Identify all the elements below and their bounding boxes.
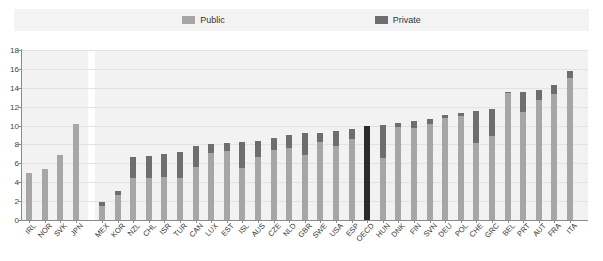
bar-GBR[interactable] <box>302 133 308 220</box>
bar-CAN[interactable] <box>193 146 199 220</box>
x-label-GBR: GBR <box>297 222 314 239</box>
bar-ISL-private-segment <box>239 142 245 168</box>
bar-FIN[interactable] <box>411 121 417 220</box>
bar-LUX-public-segment <box>208 153 214 220</box>
bar-NZL[interactable] <box>130 157 136 220</box>
bar-SVN[interactable] <box>427 119 433 220</box>
bar-CAN-public-segment <box>193 167 199 220</box>
bar-GBR-public-segment <box>302 155 308 220</box>
bar-GRC-private-segment <box>489 109 495 136</box>
bar-POL[interactable] <box>458 113 464 220</box>
y-tick-label-16: 16 <box>10 66 19 74</box>
bar-MEX[interactable] <box>99 202 105 220</box>
bar-LUX[interactable] <box>208 144 214 221</box>
bar-NLD-public-segment <box>286 148 292 220</box>
bar-DNK[interactable] <box>395 123 401 220</box>
bar-ESP-private-segment <box>349 129 355 138</box>
bar-USA[interactable] <box>333 131 339 220</box>
bar-NZL-private-segment <box>130 157 136 178</box>
x-label-CAN: CAN <box>188 222 204 239</box>
bar-IRL-public-segment <box>26 173 32 220</box>
bar-KOR[interactable] <box>115 191 121 220</box>
y-tick-label-2: 2 <box>15 198 19 206</box>
bar-GBR-private-segment <box>302 133 308 155</box>
x-label-ITA: ITA <box>565 222 578 235</box>
bar-CHL-public-segment <box>146 178 152 220</box>
bar-AUS[interactable] <box>255 141 261 220</box>
bar-CZE[interactable] <box>271 138 277 220</box>
bar-SWE[interactable] <box>317 133 323 220</box>
bar-PRT-public-segment <box>520 112 526 220</box>
legend-public-swatch-icon <box>182 16 195 24</box>
bar-FRA[interactable] <box>551 85 557 220</box>
bar-TUR-public-segment <box>177 178 183 221</box>
x-label-USA: USA <box>328 222 344 238</box>
y-tick-label-8: 8 <box>15 141 19 149</box>
y-tick-label-0: 0 <box>15 217 19 225</box>
bar-IRL[interactable] <box>26 173 32 220</box>
bar-ITA[interactable] <box>567 71 573 220</box>
y-tick-10 <box>18 126 22 127</box>
x-label-JPN: JPN <box>69 222 84 237</box>
bar-ITA-private-segment <box>567 71 573 79</box>
x-label-KOR: KOR <box>110 222 127 239</box>
bar-CAN-private-segment <box>193 146 199 167</box>
x-label-AUT: AUT <box>532 222 548 238</box>
x-label-HUN: HUN <box>375 222 392 239</box>
bar-AUT[interactable] <box>536 90 542 220</box>
bar-SVK-public-segment <box>57 155 63 220</box>
legend-public-label: Public <box>200 16 225 25</box>
bar-DEU[interactable] <box>442 115 448 220</box>
bar-NLD[interactable] <box>286 135 292 220</box>
plot-area <box>22 50 588 220</box>
x-label-CHE: CHE <box>469 222 485 239</box>
y-tick-14 <box>18 88 22 89</box>
bar-TUR[interactable] <box>177 152 183 220</box>
x-label-CHL: CHL <box>142 222 158 238</box>
bar-SVN-public-segment <box>427 124 433 220</box>
y-tick-label-10: 10 <box>10 123 19 131</box>
bar-NLD-private-segment <box>286 135 292 148</box>
bar-GRC[interactable] <box>489 109 495 220</box>
gridline-16 <box>22 69 588 70</box>
bar-PRT[interactable] <box>520 92 526 220</box>
bar-GRC-public-segment <box>489 136 495 220</box>
x-label-CZE: CZE <box>266 222 282 238</box>
bar-LUX-private-segment <box>208 144 214 153</box>
legend-public[interactable]: Public <box>182 16 225 25</box>
bar-SVK[interactable] <box>57 155 63 220</box>
bar-CHE[interactable] <box>473 111 479 220</box>
bar-SWE-private-segment <box>317 133 323 142</box>
x-axis-labels: IRLNORSVKJPNMEXKORNZLCHLISRTURCANLUXESTI… <box>22 222 588 261</box>
x-label-EST: EST <box>220 222 235 238</box>
y-tick-label-4: 4 <box>15 179 19 187</box>
bar-ISR[interactable] <box>161 154 167 220</box>
bar-USA-public-segment <box>333 146 339 220</box>
y-tick-label-18: 18 <box>10 47 19 55</box>
bar-EST[interactable] <box>224 143 230 220</box>
y-axis-labels: 024681012141618 <box>0 50 19 221</box>
bar-MEX-public-segment <box>99 206 105 220</box>
bar-HUN-public-segment <box>380 158 386 220</box>
bar-HUN-private-segment <box>380 125 386 158</box>
y-tick-4 <box>18 182 22 183</box>
bar-OECD[interactable] <box>364 126 370 220</box>
x-label-DNK: DNK <box>391 222 407 239</box>
bar-JPN[interactable] <box>73 124 79 220</box>
x-label-PRT: PRT <box>516 222 532 238</box>
x-label-LUX: LUX <box>204 222 219 238</box>
legend-private[interactable]: Private <box>375 16 421 25</box>
y-tick-label-6: 6 <box>15 160 19 168</box>
bar-BEL[interactable] <box>505 92 511 220</box>
bar-ISL[interactable] <box>239 142 245 220</box>
bar-ESP[interactable] <box>349 129 355 220</box>
y-tick-8 <box>18 144 22 145</box>
bar-HUN[interactable] <box>380 125 386 220</box>
bar-DEU-public-segment <box>442 118 448 220</box>
x-label-TUR: TUR <box>172 222 188 238</box>
bar-NOR[interactable] <box>42 169 48 220</box>
bar-AUS-private-segment <box>255 141 261 157</box>
bar-ISR-public-segment <box>161 177 167 220</box>
bar-FRA-private-segment <box>551 85 557 94</box>
bar-CHL[interactable] <box>146 156 152 220</box>
